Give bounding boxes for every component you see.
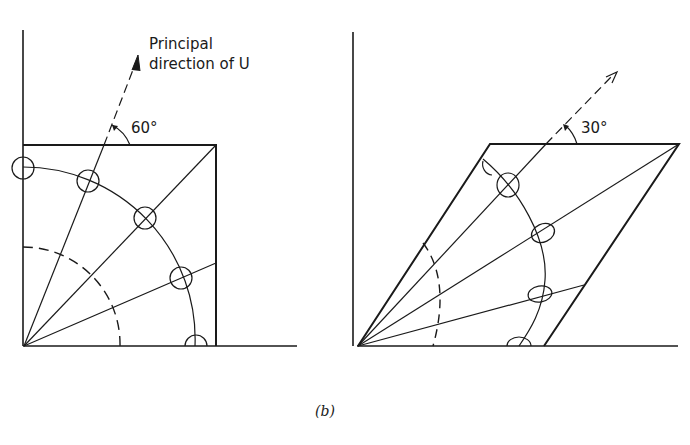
right-panel	[353, 32, 679, 346]
radial-line-high	[24, 145, 104, 346]
strain-diagram	[0, 0, 690, 445]
gauge-arc-sheared	[483, 159, 545, 346]
arrowhead-icon	[132, 55, 140, 71]
diagonal-line	[24, 145, 216, 346]
radial-line-low	[24, 263, 216, 346]
reference-arc-dashed	[423, 243, 440, 346]
angle-label-30: 30°	[581, 120, 608, 137]
gauge-circle	[77, 170, 99, 192]
left-panel	[12, 30, 297, 346]
figure-caption: (b)	[315, 403, 335, 420]
angle-label-60: 60°	[131, 120, 158, 137]
arrowhead-icon	[606, 72, 617, 83]
annotation-principal-line1: Principal	[149, 36, 213, 53]
annotation-principal-line2: direction of U	[149, 56, 250, 73]
gauge-ellipse-half	[507, 337, 531, 346]
gauge-circle-half	[185, 335, 207, 346]
